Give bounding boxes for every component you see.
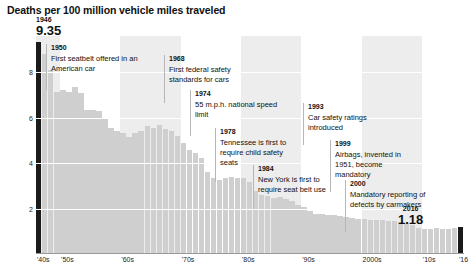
bar [72,87,77,254]
bar [187,150,192,254]
annotation-year: 1993 [308,103,383,112]
bar [132,133,137,254]
x-axis-tick-label: '60s [121,256,134,263]
endpoint-value: 1.18 [398,213,423,227]
bar [145,126,150,254]
bar [120,133,125,254]
bar [54,92,59,254]
annotation-year: 1978 [220,128,301,137]
y-axis-tick-label: 2 [29,205,33,212]
endpoint-callout-first: 1946 9.35 [36,16,61,38]
bar [181,143,186,254]
bar [175,136,180,254]
bar [422,229,427,254]
y-axis-tick-label: 4 [29,160,33,167]
bar [313,214,318,254]
bar [102,118,107,254]
annotation-year: 1999 [335,140,406,149]
bar [151,128,156,254]
annotation-text: First seatbelt offered in an American ca… [51,54,144,74]
bar [229,177,234,254]
bar [223,178,228,254]
bar [36,42,41,254]
endpoint-value: 9.35 [36,24,61,38]
bar [217,180,222,254]
bar [301,207,306,254]
x-axis-tick-label: '80s [242,256,255,263]
axis-baseline [36,253,464,254]
chart-title: Deaths per 100 million vehicle miles tra… [7,4,225,16]
annotation-1950: 1950 First seatbelt offered in an Americ… [46,44,144,90]
x-axis-tick-label: '40s [37,256,50,263]
bar [452,228,457,254]
bar [295,205,300,254]
x-axis-tick-label: '16 [459,256,468,263]
annotation-year: 1968 [169,55,256,64]
x-axis-tick-label: '70s [182,256,195,263]
bar [205,172,210,254]
annotation-text: First federal safety standards for cars [169,65,256,85]
bar [241,178,246,254]
bar [458,227,463,254]
x-axis-tick-label: '10s [423,256,436,263]
bar [96,111,101,254]
annotation-year: 1974 [195,90,278,99]
bar [114,131,119,254]
bar [169,131,174,254]
annotation-text: New York is first to require seat belt u… [258,175,337,195]
bar [307,211,312,254]
bar [126,137,131,254]
bar [199,158,204,254]
bar [434,228,439,254]
x-axis-tick-label: 2000s [363,256,382,263]
bar [440,229,445,254]
bar [235,178,240,254]
bar [319,214,324,254]
annotation-text: Airbags, invented in 1951, become mandat… [335,150,406,180]
bar [325,215,330,254]
annotation-1993: 1993 Car safety ratings introduced [303,103,383,145]
annotation-text: Tennessee is first to require child safe… [220,138,301,168]
bar [331,215,336,254]
annotation-1984: 1984 New York is first to require seat b… [253,165,337,209]
bar [247,182,252,254]
bar [446,229,451,254]
bar [163,129,168,254]
annotation-year: 2000 [350,180,429,189]
x-axis-tick-label: '90s [302,256,315,263]
x-axis-tick-label: '50s [61,256,74,263]
bar [157,125,162,254]
y-axis-tick-label: 6 [29,114,33,121]
bar [337,216,342,254]
bar [108,128,113,254]
bar [193,153,198,254]
bar [428,229,433,254]
bar [66,92,71,254]
y-axis-tick-label: 8 [29,69,33,76]
x-axis: '40s'50s'60s'70s'80s'90s2000s'10s'16 [36,256,464,270]
bar [211,178,216,254]
annotation-year: 1950 [51,44,144,53]
endpoint-callout-last: 2016 1.18 [398,205,423,227]
bar [48,70,53,254]
bar [84,110,89,254]
annotation-text: 55 m.p.h. national speed limit [195,100,278,120]
bar [60,90,65,254]
bar [138,131,143,254]
annotation-year: 1984 [258,165,337,174]
annotation-text: Car safety ratings introduced [308,113,383,133]
bar [90,110,95,254]
